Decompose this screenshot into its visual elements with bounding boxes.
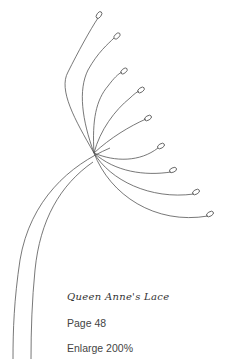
flower-illustration	[0, 0, 225, 359]
stem-inner	[31, 162, 93, 359]
pattern-title: Queen Anne's Lace	[67, 291, 169, 302]
enlarge-instruction: Enlarge 200%	[67, 342, 133, 354]
page-number: Page 48	[67, 317, 106, 329]
